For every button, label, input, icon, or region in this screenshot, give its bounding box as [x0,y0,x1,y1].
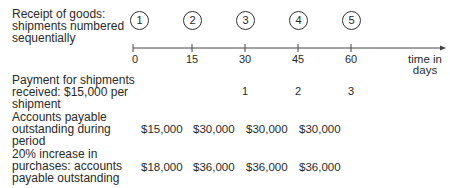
axis-title-line: days [404,65,446,76]
payment-label-line: shipment [12,98,135,110]
payment-2: 2 [283,85,313,97]
increase-value-3: $36,000 [246,161,288,173]
ap-label-line: period [12,135,111,147]
payment-3: 3 [336,85,366,97]
ap-value-1: $15,000 [141,123,183,135]
tick-label-45: 45 [283,53,313,65]
axis-title: time in days [404,54,446,76]
tick-label-60: 60 [336,53,366,65]
ap-value-2: $30,000 [193,123,235,135]
increase-value-2: $36,000 [193,161,235,173]
accounts-payable-label: Accounts payable outstanding during peri… [12,111,111,147]
increase-label-line: payable outstanding [12,172,122,184]
increase-label: 20% increase in purchases: accounts paya… [12,148,122,184]
payment-label: Payment for shipments received: $15,000 … [12,74,135,110]
payment-1: 1 [230,85,260,97]
ap-value-3: $30,000 [246,123,288,135]
increase-value-4: $36,000 [299,161,341,173]
increase-value-1: $18,000 [141,161,183,173]
ap-value-4: $30,000 [299,123,341,135]
tick-label-15: 15 [177,53,207,65]
time-axis [0,0,450,60]
tick-label-0: 0 [120,53,150,65]
tick-label-30: 30 [230,53,260,65]
